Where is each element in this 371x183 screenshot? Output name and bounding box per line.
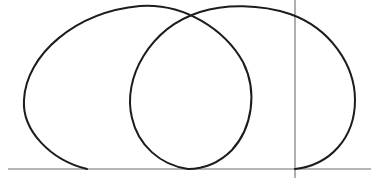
diagram-canvas <box>0 0 371 183</box>
curve-right-loop <box>130 6 355 169</box>
curve-left-loop <box>24 6 251 169</box>
diagram-figure <box>0 0 371 183</box>
